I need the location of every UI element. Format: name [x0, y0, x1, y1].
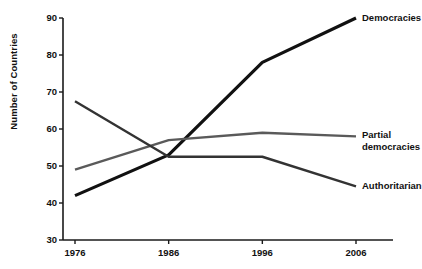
- series-line-authoritarian: [75, 101, 356, 186]
- series-line-partial-democracies: [75, 133, 356, 170]
- y-axis-tick-label: 40: [33, 198, 57, 208]
- series-label-partial-line2: democracies: [362, 141, 420, 152]
- series-label-partial-democracies: Partial democracies: [362, 129, 420, 152]
- y-axis-tick-label: 60: [33, 124, 57, 134]
- x-axis-tick-label: 1986: [141, 247, 197, 258]
- series-line-democracies: [75, 18, 356, 196]
- x-axis-tick-label: 1976: [47, 247, 103, 258]
- y-axis-tick-label: 50: [33, 161, 57, 171]
- y-axis-tick-label: 70: [33, 87, 57, 97]
- y-axis-tick-label: 30: [33, 235, 57, 245]
- x-axis-tick-label: 2006: [328, 247, 384, 258]
- series-label-democracies: Democracies: [362, 12, 421, 24]
- y-axis-tick-label: 80: [33, 50, 57, 60]
- series-lines-group: [75, 18, 356, 196]
- y-axis-tick-label: 90: [33, 13, 57, 23]
- y-axis-title: Number of Countries: [8, 22, 19, 142]
- x-axis-tick-label: 1996: [234, 247, 290, 258]
- series-label-partial-line1: Partial: [362, 129, 391, 140]
- series-label-authoritarian: Authoritarian: [362, 180, 422, 192]
